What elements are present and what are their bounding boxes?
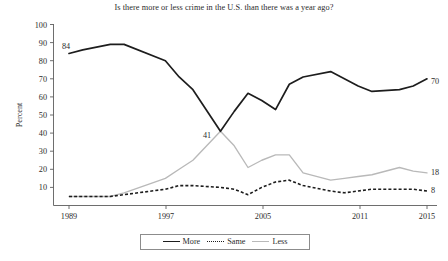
y-tick-label-50: 50 bbox=[39, 111, 47, 120]
y-axis-ticks bbox=[50, 25, 54, 188]
y-tick-label-90: 90 bbox=[39, 39, 47, 48]
data-label-end-more: 70 bbox=[431, 77, 439, 86]
legend-item-same[interactable]: Same bbox=[207, 238, 245, 246]
series-line-more bbox=[69, 44, 427, 131]
x-axis-ticks bbox=[69, 206, 427, 210]
chart-legend: More Same Less bbox=[140, 234, 310, 250]
y-tick-label-80: 80 bbox=[39, 57, 47, 66]
legend-item-more[interactable]: More bbox=[163, 238, 201, 246]
y-axis-title: Percent bbox=[15, 102, 24, 127]
data-label-end-less: 18 bbox=[431, 168, 439, 177]
legend-label-more: More bbox=[183, 238, 201, 246]
y-tick-label-70: 70 bbox=[39, 75, 47, 84]
y-tick-label-30: 30 bbox=[39, 147, 47, 156]
legend-item-less[interactable]: Less bbox=[252, 238, 287, 246]
legend-swatch-less-icon bbox=[252, 238, 269, 245]
crime-perception-line-chart: Is there more or less crime in the U.S. … bbox=[0, 0, 448, 261]
x-tick-label-1997: 1997 bbox=[158, 212, 174, 221]
x-tick-label-2015: 2015 bbox=[419, 212, 435, 221]
legend-swatch-same-icon bbox=[207, 238, 224, 245]
y-tick-label-60: 60 bbox=[39, 93, 47, 102]
data-label-start-more: 84 bbox=[62, 42, 70, 51]
legend-label-same: Same bbox=[227, 238, 245, 246]
data-label-end-same: 8 bbox=[431, 186, 435, 195]
y-tick-label-20: 20 bbox=[39, 165, 47, 174]
y-tick-label-10: 10 bbox=[39, 183, 47, 192]
plot-area: 100 90 80 70 60 50 40 30 20 10 Percent 1… bbox=[0, 0, 448, 261]
x-tick-label-2011: 2011 bbox=[352, 212, 368, 221]
x-tick-label-1989: 1989 bbox=[61, 212, 77, 221]
y-tick-label-100: 100 bbox=[35, 21, 47, 30]
legend-label-less: Less bbox=[272, 238, 287, 246]
legend-swatch-more-icon bbox=[163, 238, 180, 245]
series-line-less bbox=[69, 131, 427, 196]
data-label-min-more: 41 bbox=[203, 131, 211, 140]
series-line-same bbox=[69, 180, 427, 196]
x-tick-label-2005: 2005 bbox=[255, 212, 271, 221]
y-tick-label-40: 40 bbox=[39, 129, 47, 138]
